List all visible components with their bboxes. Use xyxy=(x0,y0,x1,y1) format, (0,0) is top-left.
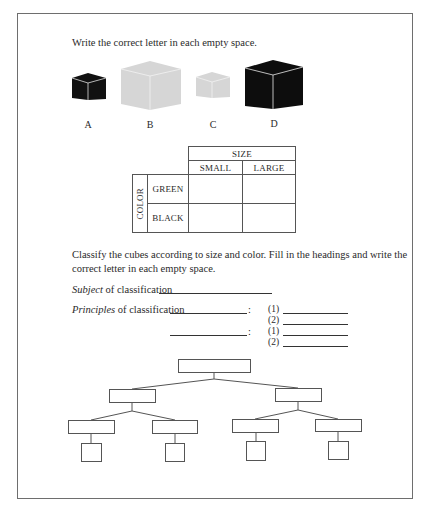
tree-level1-left-box[interactable] xyxy=(109,389,156,403)
tree-level2-box-4[interactable] xyxy=(315,419,362,432)
tree-leaf-box-2[interactable] xyxy=(165,443,185,462)
tree-root-box[interactable] xyxy=(178,359,251,373)
tree-connectors xyxy=(0,0,423,512)
tree-level2-box-3[interactable] xyxy=(232,419,279,433)
tree-level2-box-2[interactable] xyxy=(152,420,198,434)
tree-leaf-box-3[interactable] xyxy=(246,441,266,461)
tree-leaf-box-1[interactable] xyxy=(81,443,102,462)
tree-level1-right-box[interactable] xyxy=(275,388,322,402)
tree-level2-box-1[interactable] xyxy=(68,420,115,434)
tree-leaf-box-4[interactable] xyxy=(328,441,349,460)
